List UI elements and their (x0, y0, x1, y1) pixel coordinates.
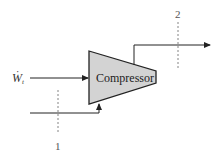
work-input-label: ·Wt (12, 72, 24, 86)
station-1-label: 1 (55, 141, 61, 152)
station-2-label: 2 (175, 9, 181, 20)
outlet-flow-line (134, 45, 210, 65)
compressor-label: Compressor (96, 72, 154, 84)
work-rate-dot: · (16, 67, 19, 77)
compressor-diagram: Compressor ·Wt 1 2 (0, 0, 224, 165)
work-subscript: t (22, 78, 24, 86)
inlet-flow-line (30, 104, 99, 113)
